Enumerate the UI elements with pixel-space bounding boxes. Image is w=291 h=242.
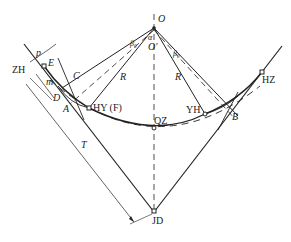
label-p: p	[35, 47, 41, 58]
tangent-left	[24, 44, 154, 212]
point-hy	[87, 106, 91, 110]
spiral-right	[205, 72, 262, 114]
label-d: D	[52, 92, 61, 103]
tangent-c	[58, 58, 84, 120]
point-qz	[152, 126, 156, 130]
point-zh	[42, 64, 46, 68]
label-o: O	[158, 13, 165, 24]
label-qz: QZ	[154, 115, 167, 126]
transition-curve-diagram: O O' α β₀ β₀ R R ZH p E C m D A HY (F) Q…	[0, 0, 291, 242]
label-beta-right: β₀	[172, 49, 180, 58]
label-hy: HY (F)	[93, 102, 122, 114]
point-jd	[152, 209, 156, 213]
label-zh: ZH	[12, 64, 25, 75]
label-a: A	[62, 103, 70, 114]
label-hz: HZ	[262, 74, 275, 85]
label-o-prime: O'	[148, 41, 158, 52]
line-o-b	[154, 28, 238, 116]
radius-left	[89, 28, 154, 108]
label-beta-left: β₀	[129, 39, 137, 48]
label-b: B	[232, 111, 238, 122]
label-jd: JD	[152, 215, 163, 226]
point-yh	[203, 112, 207, 116]
label-r-right: R	[174, 71, 181, 82]
point-o	[152, 26, 156, 30]
dashed-oprime-left	[70, 30, 154, 104]
label-c: C	[73, 70, 80, 81]
label-t: T	[81, 139, 88, 150]
label-yh: YH	[186, 104, 200, 115]
label-e: E	[47, 57, 54, 68]
label-m: m	[46, 76, 53, 87]
label-r-left: R	[119, 71, 126, 82]
spiral-left	[44, 66, 89, 108]
